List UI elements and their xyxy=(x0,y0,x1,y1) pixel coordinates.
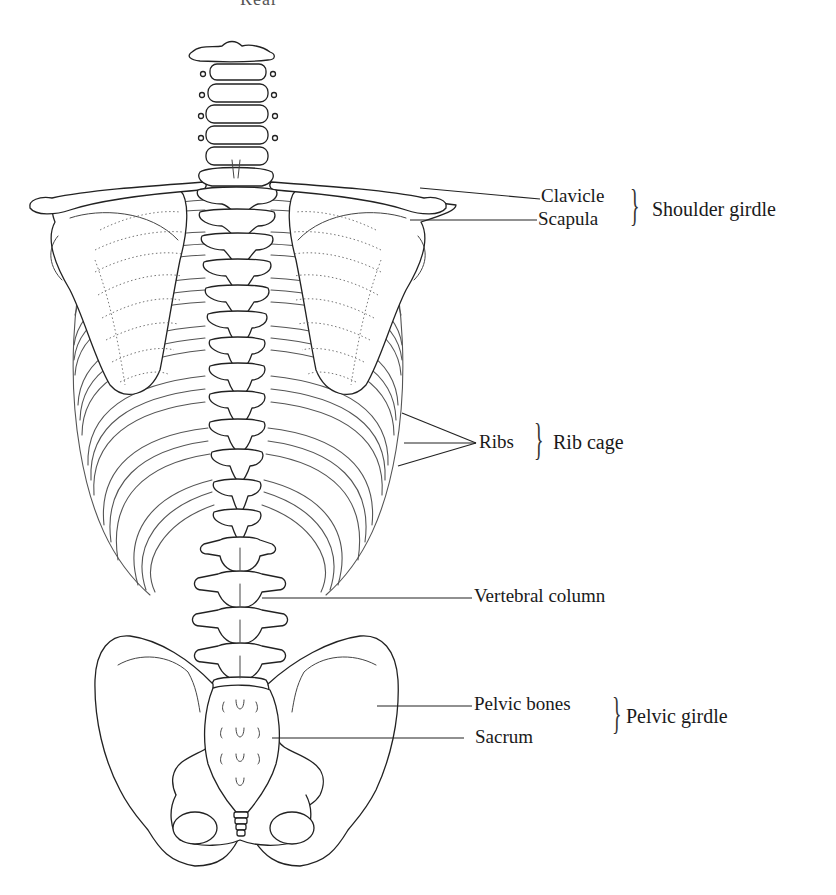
left-scapula-drawing xyxy=(30,182,206,394)
label-vertebral-column: Vertebral column xyxy=(474,586,605,605)
label-clavicle: Clavicle xyxy=(541,186,604,205)
label-sacrum: Sacrum xyxy=(475,727,533,746)
skeleton-diagram: Rear xyxy=(0,0,836,895)
right-scapula-drawing xyxy=(270,182,456,394)
group-label-rib-cage: Rib cage xyxy=(553,432,624,452)
shoulder-girdle-brace: } xyxy=(630,184,640,228)
label-ribs: Ribs xyxy=(479,432,514,451)
figure-title-fragment: Rear xyxy=(240,0,278,10)
skeleton-illustration xyxy=(0,0,836,895)
pelvic-girdle-brace: } xyxy=(612,692,622,736)
vertebral-column-drawing xyxy=(189,42,287,704)
rib-cage-brace: } xyxy=(534,418,544,462)
label-pelvic-bones: Pelvic bones xyxy=(474,694,571,713)
group-label-pelvic-girdle: Pelvic girdle xyxy=(626,706,728,726)
group-label-shoulder-girdle: Shoulder girdle xyxy=(652,199,776,219)
label-scapula: Scapula xyxy=(538,209,598,228)
